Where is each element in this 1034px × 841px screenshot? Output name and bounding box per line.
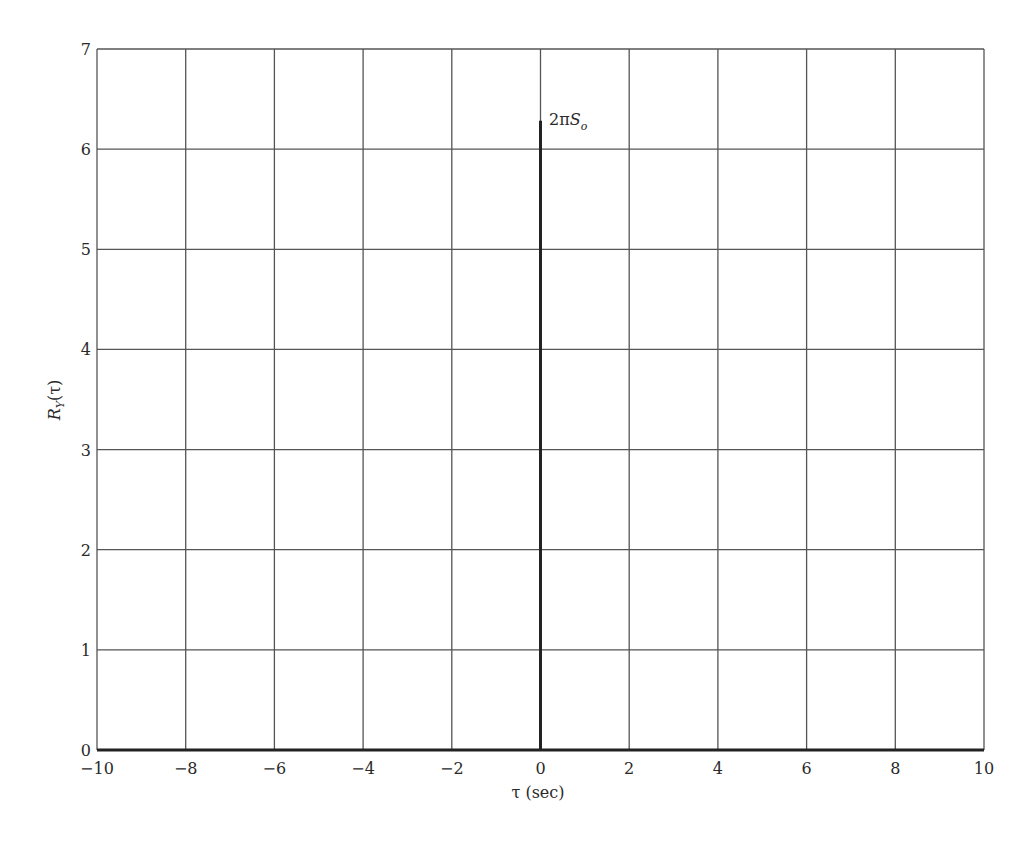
- x-tick-label: 6: [802, 759, 812, 778]
- y-axis-title: RY(τ): [45, 380, 67, 422]
- x-tick-label: 8: [890, 759, 900, 778]
- y-tick-label: 0: [81, 741, 91, 760]
- x-tick-labels: −10−8−6−4−20246810: [80, 759, 994, 778]
- impulse-annotation: 2πSo: [549, 110, 588, 133]
- x-tick-label: 4: [713, 759, 723, 778]
- autocorrelation-chart: −10−8−6−4−20246810 01234567 τ (sec) RY(τ…: [0, 0, 1034, 841]
- y-tick-label: 2: [81, 541, 91, 560]
- y-tick-label: 6: [81, 140, 91, 159]
- annotation-subscript: o: [581, 120, 588, 133]
- annotation-coefficient: 2π: [549, 110, 570, 129]
- x-tick-label: 2: [624, 759, 634, 778]
- x-tick-label: 10: [974, 759, 994, 778]
- annotation-symbol: S: [570, 110, 581, 129]
- x-tick-label: −2: [440, 759, 464, 778]
- y-tick-labels: 01234567: [81, 40, 91, 760]
- x-tick-label: −8: [174, 759, 198, 778]
- y-axis-title-main: R: [45, 408, 64, 421]
- y-tick-label: 1: [81, 641, 91, 660]
- y-tick-label: 4: [81, 340, 91, 359]
- x-tick-label: −10: [80, 759, 114, 778]
- y-axis-title-argument: (τ): [45, 380, 64, 401]
- x-axis-title: τ (sec): [511, 783, 564, 802]
- x-tick-label: −6: [263, 759, 287, 778]
- y-tick-label: 5: [81, 240, 91, 259]
- y-tick-label: 7: [81, 40, 91, 59]
- y-tick-label: 3: [81, 441, 91, 460]
- x-tick-label: −4: [351, 759, 375, 778]
- x-tick-label: 0: [535, 759, 545, 778]
